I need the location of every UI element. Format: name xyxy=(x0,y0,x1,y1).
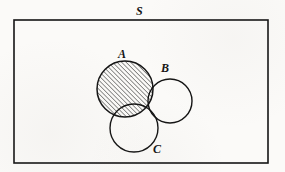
venn-diagram-figure xyxy=(0,0,285,172)
set-label-b: B xyxy=(161,62,169,74)
set-label-s: S xyxy=(136,5,143,17)
figure-canvas: S A B C xyxy=(0,0,285,172)
set-circle-b xyxy=(148,79,192,123)
set-label-c: C xyxy=(153,143,161,155)
set-label-a: A xyxy=(118,48,126,60)
shaded-region-a xyxy=(0,0,285,172)
